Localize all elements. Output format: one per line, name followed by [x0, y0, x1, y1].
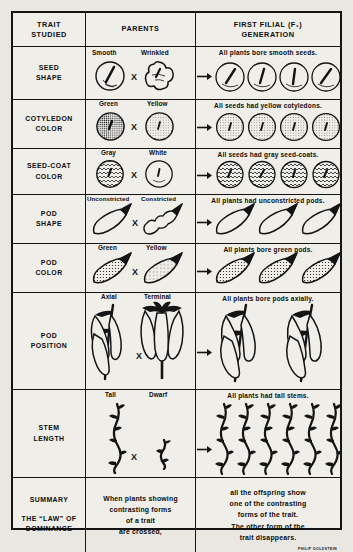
row-stem-length: STEM LENGTH Tall Dwarf X: [13, 390, 340, 478]
f1-pod-color-row: [213, 252, 340, 286]
parent-recessive-label: Wrinkled: [141, 49, 169, 56]
parents-cell-stem-length: Tall Dwarf X: [86, 390, 196, 477]
summary-parents-l1: When plants showing: [86, 493, 195, 504]
f1-pod-shape-row: [213, 203, 340, 237]
parent-recessive-label: Dwarf: [149, 391, 167, 398]
parent-dominant-label: Green: [98, 244, 117, 251]
wrinkled-seed-art: [143, 60, 175, 92]
trait-cell-cotyledon-color: COTYLEDON COLOR: [13, 100, 86, 148]
f1-caption: All plants had tall stems.: [196, 392, 340, 399]
trait-cell-seed-shape: SEED SHAPE: [13, 47, 86, 99]
cross-symbol: X: [131, 170, 137, 180]
trait-label-line1: POD: [36, 209, 62, 219]
row-seed-coat-color: SEED-COAT COLOR Gray White X: [13, 149, 340, 195]
f1-cell-pod-shape: All plants had unconstricted pods.: [196, 195, 340, 243]
parent-dominant-label: Gray: [101, 149, 116, 156]
parent-dominant-label: Smooth: [92, 49, 116, 56]
constricted-pod-art: [141, 203, 185, 237]
parents-cell-cotyledon-color: Green Yellow X: [86, 100, 196, 148]
axial-pod-plant-art: [89, 303, 137, 383]
row-pod-shape: POD SHAPE Unconstricted Constricted X: [13, 195, 340, 244]
header-row: TRAIT STUDIED PARENTS FIRST FILIAL (F₁) …: [13, 13, 340, 47]
f1-caption: All plants bore smooth seeds.: [196, 49, 340, 56]
header-trait-line1: TRAIT: [31, 20, 67, 30]
f1-seed-row: [214, 60, 340, 94]
f1-cell-seed-shape: All plants bore smooth seeds.: [196, 47, 340, 99]
parents-cell-seed-coat-color: Gray White X: [86, 149, 196, 194]
terminal-pod-plant-art: [137, 301, 187, 383]
header-trait-line2: STUDIED: [31, 30, 67, 40]
header-f1-line1: FIRST FILIAL (F₁): [196, 20, 340, 30]
parent-recessive-label: Terminal: [144, 293, 171, 300]
parent-recessive-label: Yellow: [146, 244, 167, 251]
f1-cell-stem-length: All plants had tall stems.: [196, 390, 340, 477]
f1-cotyledon-row: [214, 111, 340, 143]
trait-cell-seed-coat-color: SEED-COAT COLOR: [13, 149, 86, 194]
summary-parents-l3: of a trait: [86, 515, 195, 526]
f1-stem-row: [213, 402, 340, 475]
arrow-icon: [197, 267, 213, 276]
trait-label-line2: COLOR: [27, 172, 71, 182]
f1-caption: All seeds had yellow cotyledons.: [196, 102, 340, 109]
f1-cell-seed-coat-color: All seeds had gray seed-coats.: [196, 149, 340, 194]
trait-label-line1: STEM: [33, 423, 64, 433]
header-parents-label: PARENTS: [86, 24, 195, 34]
white-seedcoat-art: [144, 159, 174, 189]
summary-f1-l3: forms of the trait.: [196, 509, 340, 520]
parents-cell-pod-color: Green Yellow X: [86, 244, 196, 292]
trait-cell-pod-color: POD COLOR: [13, 244, 86, 292]
cross-symbol: X: [131, 72, 137, 82]
row-pod-color: POD COLOR Green Yellow X: [13, 244, 340, 293]
summary-parents-l2: contrasting forms: [86, 504, 195, 515]
header-cell-f1: FIRST FILIAL (F₁) GENERATION: [196, 13, 340, 46]
mendel-dominance-chart: TRAIT STUDIED PARENTS FIRST FILIAL (F₁) …: [11, 11, 342, 530]
yellow-pod-art: [141, 252, 185, 286]
trait-label-line2: LENGTH: [33, 434, 64, 444]
trait-label-line1: SEED-COAT: [27, 161, 71, 171]
unconstricted-pod-art: [90, 203, 134, 237]
parent-recessive-label: Constricted: [141, 195, 176, 202]
header-f1-line2: GENERATION: [196, 30, 340, 40]
summary-f1-l2: one of the contrasting: [196, 498, 340, 509]
row-pod-position: POD POSITION Axial Terminal X: [13, 293, 340, 390]
f1-cell-pod-position: All plants bore pods axially.: [196, 293, 340, 389]
f1-cell-cotyledon-color: All seeds had yellow cotyledons.: [196, 100, 340, 148]
trait-label-line2: COLOR: [35, 268, 62, 278]
trait-cell-pod-position: POD POSITION: [13, 293, 86, 389]
credit-line: PHILIP GOLDSTEIN: [298, 547, 337, 551]
gray-seedcoat-art: [95, 159, 125, 189]
trait-label-line2: SHAPE: [36, 219, 62, 229]
f1-caption: All seeds had gray seed-coats.: [196, 151, 340, 158]
parents-cell-seed-shape: Smooth Wrinkled X: [86, 47, 196, 99]
trait-cell-summary: SUMMARY THE “LAW” OF DOMINANCE: [13, 478, 86, 552]
trait-label-line1: COTYLEDON: [25, 114, 72, 124]
parents-cell-summary: When plants showing contrasting forms of…: [86, 478, 196, 552]
f1-seedcoat-row: [214, 159, 340, 190]
summary-law-line1: THE “LAW” OF: [22, 514, 77, 524]
summary-f1-l4: The other form of the: [196, 521, 340, 532]
trait-cell-stem-length: STEM LENGTH: [13, 390, 86, 477]
header-cell-trait: TRAIT STUDIED: [13, 13, 86, 46]
f1-pod-position-row: [212, 303, 340, 385]
trait-label-line2: POSITION: [31, 341, 68, 351]
summary-title: SUMMARY: [22, 495, 77, 505]
f1-caption: All plants bore pods axially.: [196, 295, 340, 302]
cross-symbol: X: [131, 122, 137, 132]
summary-parents-l4: are crossed,: [86, 526, 195, 537]
parent-recessive-label: Yellow: [147, 100, 168, 107]
trait-label-line1: POD: [35, 258, 62, 268]
trait-label-line2: COLOR: [25, 124, 72, 134]
trait-label-line1: SEED: [36, 63, 62, 73]
green-cotyledon-art: [95, 111, 126, 142]
parent-dominant-label: Axial: [101, 293, 117, 300]
tall-stem-art: [105, 402, 131, 474]
summary-f1-l5: trait disappears.: [196, 532, 340, 543]
arrow-icon: [197, 445, 213, 454]
yellow-cotyledon-art: [144, 111, 175, 142]
parent-dominant-label: Green: [99, 100, 118, 107]
row-cotyledon-color: COTYLEDON COLOR Green Yellow X: [13, 100, 340, 149]
parents-cell-pod-position: Axial Terminal X: [86, 293, 196, 389]
header-cell-parents: PARENTS: [86, 13, 196, 46]
summary-f1-l1: all the offspring show: [196, 487, 340, 498]
summary-law-line2: DOMINANCE: [22, 524, 77, 534]
